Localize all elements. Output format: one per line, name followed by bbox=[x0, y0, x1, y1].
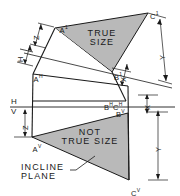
dim-y-right-arrowhead-up bbox=[156, 110, 160, 116]
vertex-bv: BV bbox=[106, 101, 125, 126]
dim-z-left-arrowhead-up bbox=[23, 109, 27, 114]
dim-y-right-arrowhead-down bbox=[156, 174, 160, 180]
dimension-z-top: Z bbox=[33, 35, 41, 40]
dimension-z-left: Z bbox=[22, 125, 30, 130]
dim-y-top-arrowhead-down bbox=[163, 75, 168, 81]
vertex-av: AV bbox=[23, 136, 41, 161]
vertex-a1-superscript: 1 bbox=[65, 24, 68, 30]
not-true-size-label: NOT TRUE SIZE bbox=[57, 128, 123, 147]
dim-y-top-arrow-line bbox=[160, 19, 166, 81]
vertex-a1: A1 bbox=[50, 17, 68, 42]
vertex-ah: AH bbox=[24, 66, 43, 91]
dimension-x-right: X bbox=[144, 105, 152, 110]
fold-line-v-label: V bbox=[11, 108, 17, 116]
true-size-label: TRUE SIZE bbox=[78, 29, 126, 48]
dimension-y-right: Y bbox=[155, 147, 163, 152]
dim-h-aux-arrowhead-up bbox=[28, 45, 32, 51]
dimension-y-top-right: Y bbox=[159, 55, 167, 60]
vertex-av-superscript: V bbox=[38, 143, 41, 149]
vertex-cv: CV bbox=[121, 180, 140, 196]
technical-drawing-figure: TRUE SIZE NOT TRUE SIZE INCLINE PLANE A1… bbox=[0, 0, 180, 196]
vertex-c1: C1 bbox=[140, 3, 159, 28]
dim-x-aux-arrowhead-up bbox=[125, 64, 129, 70]
fold-line-h-label: H bbox=[11, 98, 17, 106]
vertex-bv-superscript: V bbox=[121, 108, 124, 114]
dim-z-top-ext-lower bbox=[30, 44, 46, 48]
vertex-ah-superscript: H bbox=[39, 73, 43, 79]
dim-y-top-ext-lower bbox=[158, 80, 172, 84]
dimension-x-aux: X bbox=[120, 77, 128, 82]
dim-z-top-arrowhead-up bbox=[39, 24, 43, 30]
vertex-c1-superscript: 1 bbox=[156, 10, 159, 16]
vertex-cv-superscript: V bbox=[137, 187, 140, 193]
dimension-h-aux: H bbox=[17, 56, 25, 62]
incline-plane-label: INCLINE PLANE bbox=[21, 163, 77, 182]
